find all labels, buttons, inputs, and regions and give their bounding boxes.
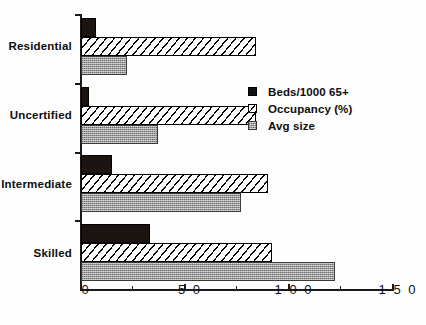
legend-item-label: Beds/1000 65+ <box>268 86 349 98</box>
y-category-label: Uncertified <box>10 109 72 121</box>
bar-skilled-avg-size <box>81 262 335 281</box>
y-axis-tick-top <box>75 14 81 16</box>
bar-skilled-occupancy <box>81 243 272 262</box>
hatched-square-icon <box>248 104 257 113</box>
x-axis-tick-label: 0 <box>81 282 90 297</box>
y-category-label: Intermediate <box>1 178 72 190</box>
legend-item-label: Occupancy (%) <box>268 103 352 115</box>
plot-area <box>80 14 392 289</box>
x-axis-tick-label: 1 5 0 <box>379 282 418 297</box>
x-axis-tick-minor <box>132 286 133 291</box>
y-category-label: Residential <box>8 40 72 52</box>
bar-uncertified-beds-1000-65 <box>81 87 89 106</box>
bar-residential-occupancy <box>81 37 256 56</box>
bar-intermediate-avg-size <box>81 193 241 212</box>
bar-uncertified-avg-size <box>81 125 158 144</box>
x-axis-tick-label: 5 0 <box>178 282 202 297</box>
gray-square-icon <box>248 121 257 130</box>
x-axis-tick-minor <box>236 286 237 291</box>
y-axis-tick <box>75 152 81 154</box>
black-square-icon <box>248 87 257 96</box>
bar-residential-avg-size <box>81 56 127 75</box>
horizontal-bar-chart: ResidentialUncertifiedIntermediateSkille… <box>0 0 426 325</box>
legend-item: Occupancy (%) <box>248 101 398 116</box>
bar-uncertified-occupancy <box>81 106 256 125</box>
bar-residential-beds-1000-65 <box>81 18 96 37</box>
x-axis-tick-label: 1 0 0 <box>275 282 314 297</box>
y-axis-tick <box>75 220 81 222</box>
bar-intermediate-beds-1000-65 <box>81 155 112 174</box>
legend-item-label: Avg size <box>268 120 315 132</box>
y-category-label: Skilled <box>34 247 72 259</box>
x-axis-tick-minor <box>340 286 341 291</box>
bar-skilled-beds-1000-65 <box>81 224 150 243</box>
y-axis-tick <box>75 83 81 85</box>
chart-legend: Beds/1000 65+ Occupancy (%) Avg size <box>248 84 398 135</box>
legend-item: Beds/1000 65+ <box>248 84 398 99</box>
bar-intermediate-occupancy <box>81 174 268 193</box>
legend-item: Avg size <box>248 118 398 133</box>
